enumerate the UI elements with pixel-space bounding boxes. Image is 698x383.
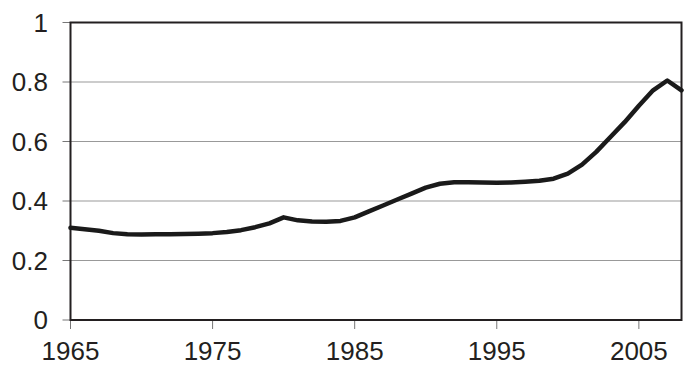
x-axis-tick-label: 2005 — [610, 338, 668, 364]
line-chart: 00.20.40.60.81 19651975198519952005 — [0, 0, 698, 383]
x-axis-tick-label: 1975 — [184, 338, 242, 364]
y-axis-tick-label: 0 — [34, 307, 48, 333]
x-axis-tick-label: 1965 — [42, 338, 100, 364]
y-axis-tick-label: 0.2 — [12, 248, 48, 274]
y-axis-tick-label: 0.4 — [12, 188, 48, 214]
plot-frame — [71, 23, 682, 321]
y-axis-tick-label: 1 — [34, 10, 48, 36]
y-axis-tick-label: 0.8 — [12, 69, 48, 95]
data-series-line — [71, 81, 682, 235]
plot-area — [0, 0, 698, 383]
axis-ticks — [63, 23, 639, 330]
y-axis-tick-label: 0.6 — [12, 129, 48, 155]
x-axis-tick-label: 1985 — [326, 338, 384, 364]
x-axis-tick-label: 1995 — [468, 338, 526, 364]
